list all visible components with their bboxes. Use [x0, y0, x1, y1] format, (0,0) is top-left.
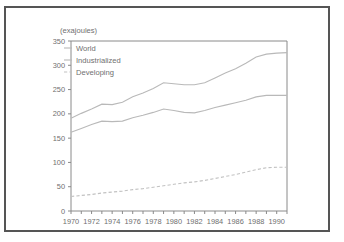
y-tick-label: 350 [53, 37, 65, 46]
x-tick-label: 1984 [207, 217, 223, 226]
legend-label-world: World [76, 44, 96, 53]
x-tick-label: 1972 [83, 217, 99, 226]
line-chart: 050100150200250300350 197019721974197619… [0, 0, 344, 242]
chart-legend: World Industrialized Developing [64, 44, 121, 77]
x-tick-label: 1970 [63, 217, 79, 226]
y-tick-label: 0 [61, 207, 65, 216]
y-axis-tick-labels: 050100150200250300350 [53, 37, 65, 216]
x-tick-label: 1976 [124, 217, 140, 226]
y-tick-label: 250 [53, 85, 65, 94]
x-tick-label: 1982 [186, 217, 202, 226]
y-tick-label: 300 [53, 61, 65, 70]
y-tick-label: 50 [57, 182, 65, 191]
chart-axes [71, 41, 287, 211]
x-axis-tick-labels: 1970197219741976197819801982198419861988… [63, 217, 285, 226]
x-tick-label: 1978 [145, 217, 161, 226]
figure-canvas: 050100150200250300350 197019721974197619… [0, 0, 344, 242]
y-axis-title: (exajoules) [60, 26, 98, 35]
series-line-industrialized [71, 95, 287, 132]
series-line-developing [71, 167, 287, 196]
y-tick-label: 100 [53, 158, 65, 167]
x-tick-label: 1980 [166, 217, 182, 226]
x-tick-label: 1988 [248, 217, 264, 226]
y-tick-label: 150 [53, 134, 65, 143]
y-tick-label: 200 [53, 109, 65, 118]
legend-label-industrialized: Industrialized [76, 56, 121, 65]
legend-label-developing: Developing [76, 68, 114, 77]
x-tick-label: 1990 [268, 217, 284, 226]
x-tick-label: 1986 [227, 217, 243, 226]
x-tick-label: 1974 [104, 217, 120, 226]
